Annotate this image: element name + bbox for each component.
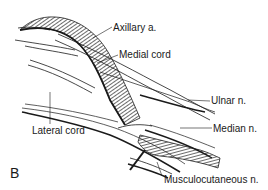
label-musculocutaneous-nerve: Musculocutaneous n.	[164, 174, 259, 185]
panel-letter: B	[10, 166, 19, 180]
lateral-cord	[22, 104, 185, 172]
label-medial-cord: Medial cord	[119, 49, 171, 60]
label-ulnar-nerve: Ulnar n.	[211, 95, 246, 106]
label-lateral-cord: Lateral cord	[32, 125, 85, 136]
label-axillary-artery: Axillary a.	[113, 22, 156, 33]
label-median-nerve: Median n.	[213, 123, 257, 134]
